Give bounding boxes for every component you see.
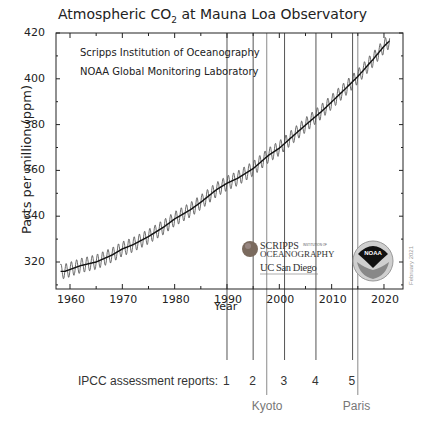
treaty-label: Paris xyxy=(343,399,370,413)
y-tick-label: 320 xyxy=(24,255,45,268)
scripps-small: INSTITUTION OF xyxy=(303,243,327,247)
x-tick-label: 1970 xyxy=(109,293,137,306)
event-lines xyxy=(227,33,358,395)
ipcc-report-number: 3 xyxy=(281,374,288,388)
source-scripps: Scripps Institution of Oceanography xyxy=(80,47,260,58)
date-stamp: February 2021 xyxy=(408,245,414,285)
x-tick-label: 1990 xyxy=(214,293,242,306)
x-tick-label: 1960 xyxy=(57,293,85,306)
source-noaa: NOAA Global Monitoring Laboratory xyxy=(80,66,259,77)
x-tick-label: 2000 xyxy=(266,293,294,306)
noaa-text: NOAA xyxy=(364,250,382,256)
x-tick-label: 2020 xyxy=(371,293,399,306)
y-tick-label: 420 xyxy=(24,26,45,39)
ipcc-report-number: 1 xyxy=(223,374,230,388)
ucsd-text: UC San Diego xyxy=(260,262,317,273)
ipcc-label: IPCC assessment reports: xyxy=(78,374,218,388)
y-tick-label: 340 xyxy=(24,209,45,222)
logos: SCRIPPS INSTITUTION OF OCEANOGRAPHY UC S… xyxy=(242,240,393,281)
co2-chart: SCRIPPS INSTITUTION OF OCEANOGRAPHY UC S… xyxy=(0,0,425,423)
y-tick-label: 400 xyxy=(24,72,45,85)
scripps-globe-icon xyxy=(242,241,258,257)
ipcc-report-number: 4 xyxy=(312,374,319,388)
ipcc-report-number: 2 xyxy=(249,374,256,388)
x-tick-label: 2010 xyxy=(319,293,347,306)
chart-title: Atmospheric CO2 at Mauna Loa Observatory xyxy=(0,6,425,25)
treaty-label: Kyoto xyxy=(252,399,283,413)
y-tick-label: 360 xyxy=(24,163,45,176)
x-tick-label: 1980 xyxy=(162,293,190,306)
y-tick-label: 380 xyxy=(24,118,45,131)
scripps-ocean: OCEANOGRAPHY xyxy=(260,249,335,259)
ipcc-report-number: 5 xyxy=(349,374,356,388)
